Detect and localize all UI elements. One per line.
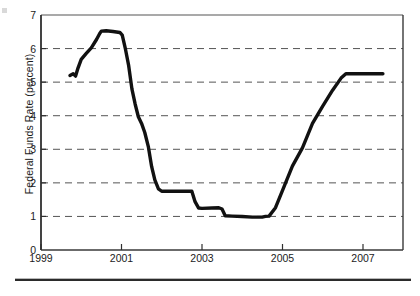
series-line-federal-funds-rate — [70, 31, 383, 217]
footer-rule-dark — [15, 279, 411, 281]
x-tick-label-2005: 2005 — [263, 252, 303, 264]
y-tick-label-2: 2 — [16, 177, 36, 189]
y-tick-label-7: 7 — [16, 9, 36, 21]
y-tick-label-1: 1 — [16, 210, 36, 222]
y-tick-label-4: 4 — [16, 110, 36, 122]
x-axis-ticks — [41, 244, 363, 250]
footer-rule — [15, 278, 411, 282]
x-tick-label-1999: 1999 — [21, 252, 61, 264]
y-tick-label-6: 6 — [16, 43, 36, 55]
y-tick-label-5: 5 — [16, 76, 36, 88]
y-tick-label-3: 3 — [16, 143, 36, 155]
x-tick-label-2001: 2001 — [102, 252, 142, 264]
plot-frame — [41, 15, 403, 250]
x-tick-label-2007: 2007 — [343, 252, 383, 264]
x-tick-label-2003: 2003 — [182, 252, 222, 264]
figure-container: Federal Funds Rate (percent) — [0, 0, 420, 296]
